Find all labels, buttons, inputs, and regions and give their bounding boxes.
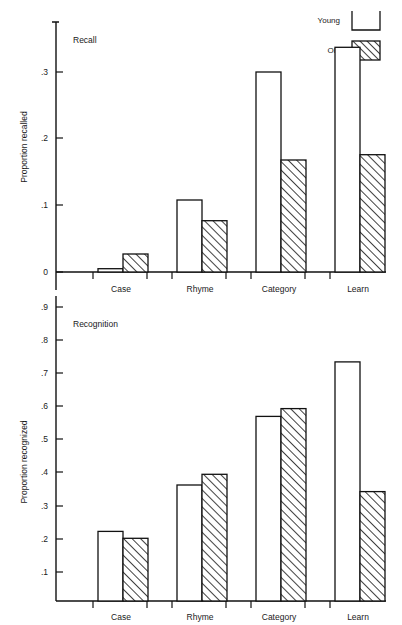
bar-old-learn-recognition: [360, 492, 385, 601]
bar-group-rhyme-recall: [177, 200, 227, 272]
y-tick-label: .3: [41, 67, 48, 77]
bar-old-case-recognition: [123, 538, 148, 601]
bar-old-learn-recall: [360, 155, 385, 272]
bar-pair-learn-recognition: [335, 362, 385, 601]
panel-recognition: Recognition Proportion recognized .1 .: [19, 296, 386, 622]
bar-young-rhyme-recall: [177, 200, 202, 272]
x-category-labels-recall: Case Rhyme Category Learn: [111, 284, 369, 294]
bar-young-category-recall: [256, 72, 281, 272]
bar-old-category-recall: [281, 160, 306, 272]
bar-group-case-recall: [98, 254, 148, 272]
bar-pair-case-recognition: [98, 531, 148, 601]
x-label-category: Category: [262, 284, 297, 294]
bar-young-case-recall: [98, 269, 123, 272]
x-label-case: Case: [111, 612, 131, 622]
bar-pair-learn-recall: [335, 47, 385, 272]
bar-young-rhyme-recognition: [177, 485, 202, 601]
y-tick-labels-recall: 0 .1 .2 .3: [41, 67, 48, 277]
y-tick-label: .2: [41, 534, 48, 544]
figure-container: Young Old Recall Proportion recalled: [0, 0, 402, 625]
x-label-learn: Learn: [347, 612, 369, 622]
y-ticks-recall: [56, 72, 63, 272]
y-tick-labels-recognition: .1 .2 .3 .4 .5 .6 .7 .8 .9: [41, 302, 48, 577]
x-label-rhyme: Rhyme: [187, 612, 214, 622]
bar-old-rhyme-recognition: [202, 474, 227, 601]
bar-pair-rhyme-recognition: [177, 474, 227, 601]
bar-old-rhyme-recall: [202, 221, 227, 272]
legend-label-young: Young: [318, 16, 340, 25]
bar-young-learn-recall: [335, 47, 360, 272]
panel-title-recall: Recall: [73, 35, 97, 45]
bar-young-category-recognition: [256, 416, 281, 601]
panel-title-recognition: Recognition: [73, 319, 118, 329]
y-tick-label: .7: [41, 368, 48, 378]
y-tick-label: .4: [41, 467, 48, 477]
y-tick-label: .6: [41, 401, 48, 411]
y-axis-title-recall: Proportion recalled: [19, 111, 29, 183]
y-axis-title-recognition: Proportion recognized: [19, 420, 29, 503]
y-tick-label: 0: [43, 267, 48, 277]
bar-young-case-recognition: [98, 531, 123, 601]
legend-swatch-young: [352, 11, 380, 30]
bar-pair-category-recall: [256, 72, 306, 272]
bar-young-learn-recognition: [335, 362, 360, 601]
y-tick-label: .1: [41, 567, 48, 577]
y-tick-label: .9: [41, 302, 48, 312]
panel-recall: Recall Proportion recalled 0 .1 .2 .3: [19, 22, 386, 294]
x-category-labels-recognition: Case Rhyme Category Learn: [111, 612, 369, 622]
y-tick-label: .5: [41, 434, 48, 444]
y-tick-label: .3: [41, 501, 48, 511]
y-tick-label: .1: [41, 200, 48, 210]
x-label-learn: Learn: [347, 284, 369, 294]
x-ticks-recall: [93, 272, 330, 279]
x-ticks-recognition: [93, 601, 330, 608]
y-tick-label: .2: [41, 133, 48, 143]
x-label-case: Case: [111, 284, 131, 294]
y-ticks-recognition: [56, 307, 63, 572]
bar-old-category-recognition: [281, 409, 306, 601]
bar-old-case-recall: [123, 254, 148, 272]
x-label-category: Category: [262, 612, 297, 622]
y-tick-label: .8: [41, 335, 48, 345]
two-panel-bar-chart: Young Old Recall Proportion recalled: [0, 0, 402, 625]
bar-pair-category-recognition: [256, 409, 306, 601]
x-label-rhyme: Rhyme: [187, 284, 214, 294]
